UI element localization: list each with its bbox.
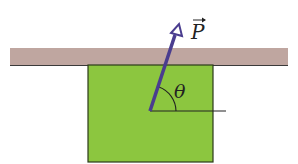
force-label: P (190, 20, 205, 44)
angle-label: θ (174, 80, 186, 102)
diagram-canvas: P θ (0, 0, 298, 164)
ceiling (10, 48, 288, 65)
block (88, 65, 213, 162)
force-arrow-head (171, 24, 182, 36)
